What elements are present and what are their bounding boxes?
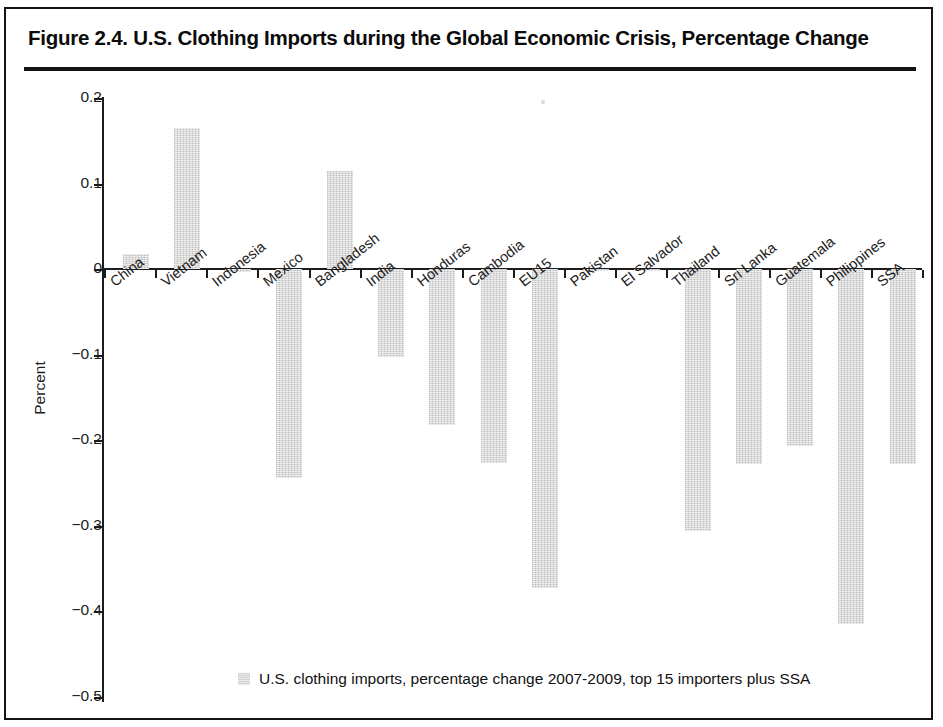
x-tick-mark	[513, 270, 515, 278]
bar-honduras	[429, 269, 455, 425]
y-tick-mark	[94, 611, 102, 613]
y-tick-label: 0.1	[44, 174, 102, 192]
bar-thailand	[685, 269, 711, 531]
bar-guatemala	[787, 269, 813, 446]
y-tick-mark	[94, 184, 102, 186]
figure-frame: Figure 2.4. U.S. Clothing Imports during…	[4, 7, 933, 720]
x-tick-mark	[309, 270, 311, 278]
x-tick-mark	[564, 270, 566, 278]
y-tick-mark	[94, 98, 102, 100]
y-tick-mark	[94, 355, 102, 357]
bar-mexico	[276, 269, 302, 478]
x-label-indonesia: Indonesia	[209, 238, 268, 289]
legend-label: U.S. clothing imports, percentage change…	[259, 670, 810, 688]
x-tick-mark	[155, 270, 157, 278]
x-label-pakistan: Pakistan	[567, 243, 621, 290]
y-axis-line	[102, 97, 104, 702]
y-tick-label: −0.4	[44, 601, 102, 619]
bar-sri-lanka	[736, 269, 762, 464]
x-tick-mark	[104, 270, 106, 278]
y-tick-label: −0.5	[44, 687, 102, 705]
x-tick-mark	[922, 270, 924, 278]
bar-chart-plot-area: Percent 0.20.10−0.1−0.2−0.3−0.4−0.5 Chin…	[6, 9, 935, 722]
x-tick-mark	[820, 270, 822, 278]
legend-swatch-icon	[238, 673, 250, 685]
y-tick-label: −0.3	[44, 516, 102, 534]
y-tick-mark	[94, 440, 102, 442]
x-tick-mark	[718, 270, 720, 278]
x-tick-mark	[462, 270, 464, 278]
y-tick-mark	[94, 526, 102, 528]
bar-philippines	[838, 269, 864, 624]
x-tick-mark	[769, 270, 771, 278]
y-tick-label: 0	[44, 259, 102, 277]
scan-artifact-dot	[541, 100, 545, 104]
y-tick-label: −0.2	[44, 430, 102, 448]
bar-eu15	[532, 269, 558, 588]
x-tick-mark	[871, 270, 873, 278]
y-tick-label: −0.1	[44, 345, 102, 363]
bar-ssa	[890, 269, 916, 464]
bar-cambodia	[481, 269, 507, 463]
x-tick-mark	[411, 270, 413, 278]
y-tick-label: 0.2	[44, 88, 102, 106]
x-tick-mark	[360, 270, 362, 278]
chart-legend: U.S. clothing imports, percentage change…	[238, 670, 810, 688]
y-tick-mark	[94, 697, 102, 699]
y-tick-mark	[94, 269, 102, 271]
